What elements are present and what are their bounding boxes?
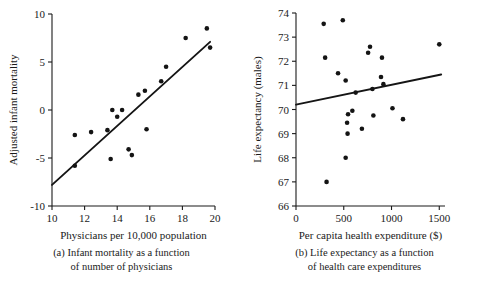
x-tick-label: 500	[336, 212, 353, 224]
x-tick-label: 14	[112, 212, 124, 224]
data-point	[205, 26, 210, 31]
data-point	[105, 128, 110, 133]
data-point	[353, 90, 358, 95]
y-tick-label: 66	[278, 200, 290, 212]
panel-a-caption: (a) Infant mortality as a function of nu…	[0, 246, 243, 274]
data-point	[159, 79, 164, 84]
data-point	[73, 133, 78, 138]
data-point	[108, 157, 113, 162]
data-point	[390, 106, 395, 111]
data-point	[208, 45, 213, 50]
panel-a-caption-line-1: (a) Infant mortality as a function	[0, 246, 243, 260]
panel-b-life-expectancy: 666768697071727374050010001500Per capita…	[243, 0, 486, 304]
data-point	[323, 55, 328, 60]
data-point	[136, 92, 141, 97]
data-point	[350, 108, 355, 113]
data-point	[345, 120, 350, 125]
least-squares-regression-line	[52, 42, 210, 185]
y-tick-label: 0	[40, 104, 46, 116]
y-axis-title: Life expectancy (males)	[251, 56, 264, 163]
data-point	[321, 22, 326, 27]
data-point	[371, 113, 376, 118]
data-point	[115, 114, 120, 119]
data-point	[366, 51, 371, 56]
data-point	[341, 18, 346, 23]
x-tick-label: 20	[210, 212, 222, 224]
panel-b-plot: 666768697071727374050010001500Per capita…	[243, 0, 486, 246]
data-point	[144, 127, 149, 132]
data-point	[368, 44, 373, 49]
panel-b-caption-line-1: (b) Life expectancy as a function	[243, 246, 486, 260]
y-tick-label: 71	[278, 79, 289, 91]
y-tick-label: 70	[278, 104, 290, 116]
data-point	[126, 147, 131, 152]
x-tick-label: 0	[293, 212, 299, 224]
x-tick-label: 1500	[428, 212, 451, 224]
data-point	[343, 155, 348, 160]
x-axis-title: Per capita health expenditure ($)	[299, 229, 443, 242]
least-squares-regression-line	[296, 75, 441, 105]
y-tick-label: 74	[278, 7, 290, 19]
data-point	[381, 82, 386, 87]
data-point	[437, 42, 442, 47]
data-point	[120, 108, 125, 113]
figure-container: -10-50510101214161820Physicians per 10,0…	[0, 0, 486, 304]
x-tick-label: 12	[79, 212, 90, 224]
y-tick-label: 73	[278, 31, 290, 43]
y-tick-label: 68	[278, 152, 290, 164]
x-tick-label: 16	[144, 212, 156, 224]
y-tick-label: 67	[278, 176, 290, 188]
data-point	[130, 153, 135, 158]
data-point	[110, 108, 115, 113]
data-point	[183, 36, 188, 41]
y-axis-title: Adjusted infant mortality	[7, 54, 19, 166]
data-point	[336, 71, 341, 76]
y-tick-label: 69	[278, 128, 290, 140]
y-tick-label: -10	[30, 200, 45, 212]
y-tick-label: -5	[36, 152, 46, 164]
panel-a-caption-line-2: of number of physicians	[0, 260, 243, 274]
data-point	[346, 112, 351, 117]
panel-a-infant-mortality: -10-50510101214161820Physicians per 10,0…	[0, 0, 243, 304]
x-tick-label: 1000	[381, 212, 404, 224]
data-point	[164, 65, 169, 70]
data-point	[379, 75, 384, 80]
x-axis-title: Physicians per 10,000 population	[60, 229, 207, 241]
data-point	[345, 131, 350, 136]
data-point	[73, 163, 78, 168]
x-tick-label: 18	[177, 212, 189, 224]
data-point	[380, 55, 385, 60]
data-point	[343, 78, 348, 83]
y-tick-label: 5	[40, 56, 46, 68]
panel-a-plot: -10-50510101214161820Physicians per 10,0…	[0, 0, 243, 246]
data-point	[360, 127, 365, 132]
x-tick-label: 10	[47, 212, 59, 224]
data-point	[89, 130, 94, 135]
y-tick-label: 72	[278, 55, 289, 67]
data-point	[143, 89, 148, 94]
data-point	[370, 87, 375, 92]
data-point	[324, 180, 329, 185]
data-point	[401, 117, 406, 122]
panel-b-caption: (b) Life expectancy as a function of hea…	[243, 246, 486, 274]
y-tick-label: 10	[34, 8, 46, 20]
panel-b-caption-line-2: of health care expenditures	[243, 260, 486, 274]
